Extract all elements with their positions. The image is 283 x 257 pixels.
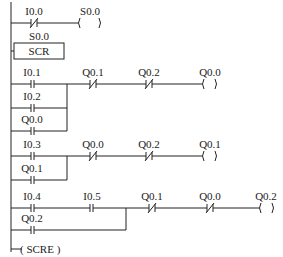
scre-coil-label: ( SCRE )	[20, 244, 60, 255]
contact-label: Q0.2	[12, 213, 52, 224]
contact-label: I0.5	[72, 191, 112, 202]
contact-label: I0.3	[12, 139, 52, 150]
contact-label: I0.2	[12, 91, 52, 102]
contact-label: I0.0	[14, 6, 54, 17]
contact-label: Q0.0	[190, 191, 230, 202]
contact-label: Q0.0	[12, 114, 52, 125]
contact-label: Q0.1	[132, 191, 172, 202]
coil-label: S0.0	[70, 6, 110, 17]
coil-label: Q0.2	[246, 191, 283, 202]
coil-label: Q0.1	[190, 139, 230, 150]
contact-label: Q0.2	[129, 67, 169, 78]
coil-label: Q0.0	[190, 67, 230, 78]
contact-label: Q0.1	[12, 163, 52, 174]
contact-label: I0.4	[12, 191, 52, 202]
network-3	[11, 79, 217, 135]
contact-label: Q0.0	[73, 139, 113, 150]
scr-bit-label: S0.0	[19, 31, 59, 42]
contact-label: Q0.2	[129, 139, 169, 150]
contact-label: Q0.1	[73, 67, 113, 78]
network-1	[11, 18, 101, 28]
contact-label: I0.1	[12, 67, 52, 78]
scr-box-label: SCR	[19, 46, 59, 57]
